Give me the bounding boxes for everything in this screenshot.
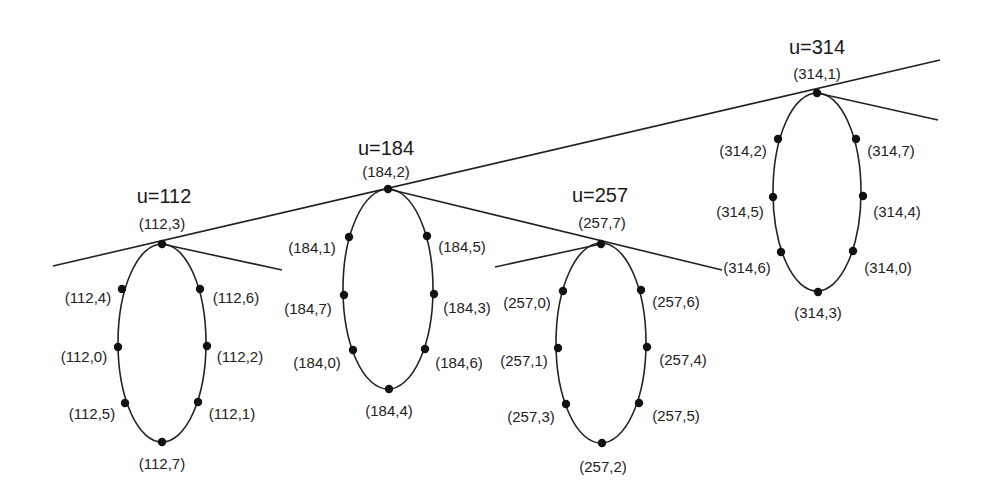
node-label: (184,3) <box>443 299 491 316</box>
node-label: (112,4) <box>65 289 111 306</box>
node-label: (112,3) <box>139 215 185 232</box>
node-dot <box>635 399 643 407</box>
node-dot <box>384 185 392 193</box>
node-dot <box>158 240 166 248</box>
link-branch-112 <box>162 244 282 270</box>
node-label: (112,7) <box>139 455 185 472</box>
node-dot <box>597 240 605 248</box>
link-branch-257-left <box>495 244 601 267</box>
node-dot <box>769 193 777 201</box>
node-label: (184,0) <box>293 354 341 371</box>
node-dot <box>349 346 357 354</box>
ring-u314 <box>773 93 861 291</box>
node-dot <box>196 285 204 293</box>
node-label: (257,3) <box>507 408 555 425</box>
node-label: (314,2) <box>719 142 767 159</box>
node-dot <box>340 291 348 299</box>
link-main-line <box>53 60 940 266</box>
node-dot <box>849 247 857 255</box>
node-label: (112,0) <box>61 348 107 365</box>
node-label: (314,4) <box>873 203 921 220</box>
node-dot <box>385 385 393 393</box>
node-label: (257,6) <box>652 293 700 310</box>
node-dot <box>559 287 567 295</box>
node-label: (184,4) <box>365 402 413 419</box>
node-dot <box>554 344 562 352</box>
node-dot <box>859 192 867 200</box>
node-dot <box>777 248 785 256</box>
node-dot <box>814 288 822 296</box>
node-label: (257,2) <box>579 458 627 475</box>
node-dot <box>774 135 782 143</box>
node-dot <box>423 232 431 240</box>
node-dot <box>158 438 166 446</box>
node-label: (184,6) <box>435 354 483 371</box>
ring-title: u=112 <box>137 185 192 208</box>
ring-title: u=257 <box>572 184 628 207</box>
node-label: (314,6) <box>723 259 771 276</box>
node-label: (257,7) <box>578 214 626 231</box>
node-label: (184,7) <box>284 300 332 317</box>
ring-title: u=184 <box>358 137 414 160</box>
node-dot <box>637 286 645 294</box>
link-branch-314 <box>817 93 938 120</box>
node-label: (184,1) <box>288 239 336 256</box>
node-dot <box>562 400 570 408</box>
node-dot <box>852 135 860 143</box>
ring-u112 <box>118 244 206 442</box>
node-label: (112,5) <box>69 405 115 422</box>
node-label: (257,5) <box>652 407 700 424</box>
node-dot <box>421 345 429 353</box>
node-label: (184,2) <box>362 163 410 180</box>
ring-u184 <box>343 189 433 389</box>
node-dot <box>598 439 606 447</box>
node-label: (314,0) <box>864 259 912 276</box>
node-label: (112,2) <box>217 348 263 365</box>
node-label: (184,5) <box>438 238 486 255</box>
node-label: (314,7) <box>867 142 915 159</box>
node-label: (257,0) <box>503 294 551 311</box>
ring-u257 <box>556 243 646 443</box>
node-label: (314,1) <box>793 65 841 82</box>
node-dot <box>118 285 126 293</box>
node-label: (257,4) <box>659 351 707 368</box>
node-label: (112,1) <box>209 405 255 422</box>
node-dot <box>114 343 122 351</box>
node-dot <box>194 398 202 406</box>
node-dot <box>203 342 211 350</box>
node-label: (112,6) <box>213 289 259 306</box>
node-dot <box>430 290 438 298</box>
node-label: (257,1) <box>500 352 548 369</box>
node-dot <box>121 399 129 407</box>
node-label: (314,3) <box>794 304 842 321</box>
node-dot <box>643 343 651 351</box>
node-label: (314,5) <box>716 203 764 220</box>
node-dot <box>345 233 353 241</box>
node-dot <box>813 89 821 97</box>
ring-title: u=314 <box>789 36 845 59</box>
link-branch-184 <box>388 189 722 270</box>
